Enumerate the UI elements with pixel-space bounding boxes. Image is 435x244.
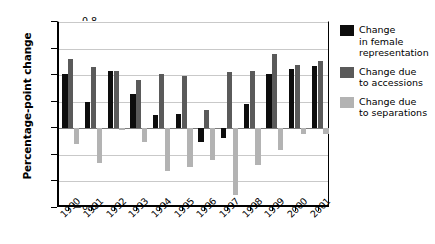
bar [250, 71, 255, 128]
y-tick-mark [51, 207, 57, 208]
bar [301, 128, 306, 133]
bar [114, 71, 119, 128]
bar [68, 59, 73, 128]
bar [165, 128, 170, 171]
legend-label: Changein femalerepresentation [359, 24, 429, 59]
bar [91, 67, 96, 128]
bar [266, 74, 271, 128]
bar [323, 128, 328, 133]
bar-group [150, 22, 173, 205]
legend-item: Change dueto accessions [340, 66, 435, 89]
legend-label: Change dueto accessions [359, 66, 423, 89]
bar [255, 128, 260, 165]
bar [119, 128, 124, 129]
bar [142, 128, 147, 141]
bar-group [286, 22, 309, 205]
bar-group [172, 22, 195, 205]
bar-group [127, 22, 150, 205]
bar [159, 74, 164, 128]
bar [187, 128, 192, 167]
bar [97, 128, 102, 163]
bar [136, 80, 141, 128]
bar [85, 102, 90, 129]
bar [278, 128, 283, 149]
bar-group [308, 22, 331, 205]
bar [221, 128, 226, 137]
bar [244, 104, 249, 128]
bar [312, 66, 317, 128]
bar [289, 69, 294, 129]
plot-area [57, 21, 329, 207]
bar-chart: Percentage-point change 0.80.60.40.20−0.… [0, 0, 435, 244]
bar-group [59, 22, 82, 205]
bar [176, 114, 181, 129]
bar [108, 71, 113, 128]
bar [295, 65, 300, 129]
bar-group [195, 22, 218, 205]
legend-item: Changein femalerepresentation [340, 24, 435, 59]
bar [198, 128, 203, 141]
bar [318, 61, 323, 129]
bar-group [263, 22, 286, 205]
bar-group [82, 22, 105, 205]
bar-group [218, 22, 241, 205]
legend-swatch-icon [340, 67, 354, 78]
legend-swatch-icon [340, 25, 354, 36]
bar-group [104, 22, 127, 205]
chart-legend: Changein femalerepresentationChange duet… [340, 24, 435, 126]
bar [210, 128, 215, 160]
legend-item: Change dueto separations [340, 96, 435, 119]
bar [153, 115, 158, 128]
bar-group [240, 22, 263, 205]
legend-swatch-icon [340, 97, 354, 108]
bar [182, 76, 187, 128]
bar [272, 54, 277, 128]
bar [130, 94, 135, 129]
y-axis-title: Percentage-point change [21, 16, 33, 196]
legend-label: Change dueto separations [359, 96, 427, 119]
bar [74, 128, 79, 144]
bar [204, 110, 209, 129]
bar [227, 72, 232, 128]
bar [62, 74, 67, 128]
bar [233, 128, 238, 194]
